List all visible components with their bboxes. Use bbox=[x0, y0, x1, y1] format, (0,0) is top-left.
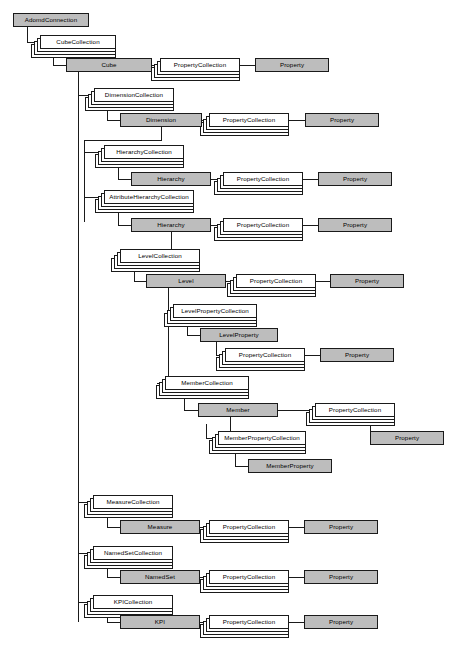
node-measure[interactable]: Measure bbox=[120, 520, 200, 534]
node-label-memberproperty-collection: MemberPropertyCollection bbox=[224, 435, 300, 441]
node-label-level-property-box: Property bbox=[355, 278, 379, 284]
node-label-namedset-collection: NamedSetCollection bbox=[104, 550, 162, 556]
node-member-collection[interactable]: MemberCollection bbox=[165, 376, 249, 390]
node-cube-collection[interactable]: CubeCollection bbox=[40, 35, 116, 49]
node-label-namedset-property: Property bbox=[329, 574, 353, 580]
node-label-namedset: NamedSet bbox=[145, 574, 175, 580]
node-label-cube-collection: CubeCollection bbox=[56, 39, 99, 45]
conn-down-from-adomdconnection bbox=[27, 27, 28, 42]
node-hierarchy-property-collection[interactable]: PropertyCollection bbox=[223, 172, 303, 186]
node-label-hierarchy-property: Property bbox=[343, 176, 367, 182]
node-measure-collection[interactable]: MeasureCollection bbox=[93, 495, 173, 509]
levelproperty-down bbox=[216, 342, 217, 355]
node-hierarchy-property[interactable]: Property bbox=[318, 172, 392, 186]
node-label-memberproperty: MemberProperty bbox=[266, 463, 313, 469]
node-label-hierarchy-collection: HierarchyCollection bbox=[116, 149, 172, 155]
node-namedset[interactable]: NamedSet bbox=[120, 570, 200, 584]
node-dimension-property-collection[interactable]: PropertyCollection bbox=[209, 113, 289, 127]
cube-trunk-vertical bbox=[78, 72, 79, 622]
node-level[interactable]: Level bbox=[146, 274, 226, 288]
node-kpi-property[interactable]: Property bbox=[304, 615, 378, 629]
dimensionpropcoll-to-property bbox=[289, 120, 305, 121]
hierarchypropcoll-to-property bbox=[303, 179, 318, 180]
levelcoll-to-level bbox=[134, 281, 146, 282]
node-adomd-connection[interactable]: AdomdConnection bbox=[13, 13, 89, 27]
node-measure-property-collection[interactable]: PropertyCollection bbox=[209, 520, 289, 534]
attrhierarchycoll-to-hierarchy bbox=[118, 225, 131, 226]
node-levelproperty[interactable]: LevelProperty bbox=[200, 328, 278, 342]
node-cube[interactable]: Cube bbox=[66, 58, 152, 72]
node-namedset-property[interactable]: Property bbox=[304, 570, 378, 584]
node-member-property-collection-1[interactable]: PropertyCollection bbox=[315, 403, 395, 417]
node-attribute-hierarchy-property[interactable]: Property bbox=[318, 218, 392, 232]
dimension-trunk-left bbox=[84, 140, 162, 141]
node-level-property-box[interactable]: Property bbox=[330, 274, 404, 288]
node-label-hierarchy: Hierarchy bbox=[157, 176, 184, 182]
node-label-adomd-connection: AdomdConnection bbox=[25, 17, 77, 23]
node-label-level: Level bbox=[178, 278, 193, 284]
node-label-hierarchy-property-collection: PropertyCollection bbox=[237, 176, 289, 182]
node-attribute-hierarchy-collection[interactable]: AttributeHierarchyCollection bbox=[104, 190, 194, 204]
node-label-kpi-property-collection: PropertyCollection bbox=[223, 619, 275, 625]
memberpropcoll-to-memberproperty bbox=[235, 466, 248, 467]
node-cube-property[interactable]: Property bbox=[255, 58, 329, 72]
attrhierarchypropcoll-to-property bbox=[303, 225, 318, 226]
object-model-diagram: AdomdConnectionCubeCollectionCubePropert… bbox=[0, 0, 458, 652]
node-level-collection[interactable]: LevelCollection bbox=[120, 249, 200, 263]
node-label-member-property-collection-1: PropertyCollection bbox=[329, 407, 381, 413]
node-kpi[interactable]: KPI bbox=[120, 615, 200, 629]
node-kpi-collection[interactable]: KPICollection bbox=[93, 595, 173, 609]
kpipropcoll-to-property bbox=[289, 622, 304, 623]
node-label-levelproperty-collection: LevelPropertyCollection bbox=[181, 308, 249, 314]
membercoll-join-v bbox=[157, 383, 158, 384]
node-label-level-property-collection-1: PropertyCollection bbox=[250, 278, 302, 284]
node-member-property-box[interactable]: Property bbox=[370, 431, 444, 445]
node-label-member-collection: MemberCollection bbox=[181, 380, 232, 386]
node-label-member: Member bbox=[226, 407, 249, 413]
namedsetcoll-to-namedset bbox=[107, 577, 120, 578]
node-label-attribute-hierarchy: Hierarchy bbox=[157, 222, 184, 228]
node-label-levelproperty: LevelProperty bbox=[219, 332, 258, 338]
node-attribute-hierarchy-property-collection[interactable]: PropertyCollection bbox=[223, 218, 303, 232]
node-namedset-property-collection[interactable]: PropertyCollection bbox=[209, 570, 289, 584]
node-measure-property[interactable]: Property bbox=[304, 520, 378, 534]
hierarchycoll-to-hierarchy bbox=[118, 179, 131, 180]
levelproppropcoll-to-property bbox=[305, 355, 320, 356]
node-levelproperty-property-collection[interactable]: PropertyCollection bbox=[225, 348, 305, 362]
node-dimension[interactable]: Dimension bbox=[120, 113, 202, 127]
node-memberproperty[interactable]: MemberProperty bbox=[248, 459, 332, 473]
node-label-measure: Measure bbox=[148, 524, 173, 530]
node-label-measure-property: Property bbox=[329, 524, 353, 530]
node-label-measure-collection: MeasureCollection bbox=[107, 499, 160, 505]
levelpropcoll-to-property bbox=[316, 281, 330, 282]
node-member[interactable]: Member bbox=[198, 403, 278, 417]
membercoll-to-member bbox=[184, 410, 198, 411]
node-label-attribute-hierarchy-collection: AttributeHierarchyCollection bbox=[109, 194, 189, 200]
node-label-dimension-collection: DimensionCollection bbox=[105, 92, 163, 98]
node-label-cube-property: Property bbox=[280, 62, 304, 68]
node-label-levelproperty-property-collection: PropertyCollection bbox=[239, 352, 291, 358]
node-label-cube: Cube bbox=[101, 62, 116, 68]
node-hierarchy[interactable]: Hierarchy bbox=[131, 172, 211, 186]
node-hierarchy-collection[interactable]: HierarchyCollection bbox=[104, 145, 184, 159]
dimension-trunk-down bbox=[161, 127, 162, 140]
node-dimension-collection[interactable]: DimensionCollection bbox=[94, 88, 174, 102]
node-memberproperty-collection[interactable]: MemberPropertyCollection bbox=[218, 431, 306, 445]
node-label-dimension-property-collection: PropertyCollection bbox=[223, 117, 275, 123]
kpicoll-to-kpi bbox=[107, 622, 120, 623]
node-label-kpi-property: Property bbox=[329, 619, 353, 625]
node-level-property-collection-1[interactable]: PropertyCollection bbox=[236, 274, 316, 288]
node-attribute-hierarchy[interactable]: Hierarchy bbox=[131, 218, 211, 232]
node-label-kpi-collection: KPICollection bbox=[114, 599, 152, 605]
node-dimension-property[interactable]: Property bbox=[305, 113, 379, 127]
node-levelproperty-collection[interactable]: LevelPropertyCollection bbox=[173, 304, 257, 318]
node-kpi-property-collection[interactable]: PropertyCollection bbox=[209, 615, 289, 629]
node-levelproperty-property[interactable]: Property bbox=[320, 348, 394, 362]
node-label-measure-property-collection: PropertyCollection bbox=[223, 524, 275, 530]
node-cube-property-collection[interactable]: PropertyCollection bbox=[160, 58, 240, 72]
node-namedset-collection[interactable]: NamedSetCollection bbox=[93, 546, 173, 560]
memberpropcoll-stub-v bbox=[206, 424, 207, 438]
dimensioncollection-to-dimension bbox=[107, 120, 120, 121]
levelpropcoll-to-levelproperty bbox=[187, 335, 200, 336]
node-label-levelproperty-property: Property bbox=[345, 352, 369, 358]
